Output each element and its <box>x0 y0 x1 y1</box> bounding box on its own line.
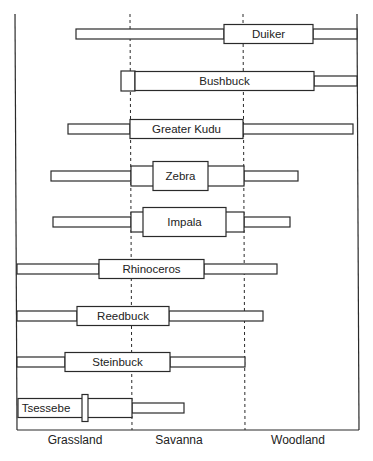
habitat-range-chart: DuikerBushbuckGreater KuduZebraImpalaRhi… <box>0 0 373 461</box>
x-label-grassland: Grassland <box>48 433 103 447</box>
left-axis-line <box>15 14 17 430</box>
species-row-rhinoceros: Rhinoceros <box>17 260 277 279</box>
greater-kudu-thin-range <box>68 124 130 134</box>
bushbuck-thin-range <box>314 76 357 86</box>
duiker-thin-range <box>76 29 224 39</box>
species-row-greater-kudu: Greater Kudu <box>68 120 353 139</box>
tsessebe-thin-range <box>132 403 184 413</box>
species-label-zebra: Zebra <box>165 170 196 182</box>
species-row-impala: Impala <box>53 208 290 237</box>
species-row-steinbuck: Steinbuck <box>17 353 245 372</box>
impala-thin-range <box>244 217 290 227</box>
steinbuck-thin-range <box>170 357 245 367</box>
species-row-zebra: Zebra <box>51 162 298 191</box>
species-row-duiker: Duiker <box>76 25 357 44</box>
species-label-reedbuck: Reedbuck <box>97 310 149 322</box>
duiker-thin-range <box>313 29 357 39</box>
impala-thin-range <box>53 217 131 227</box>
species-label-duiker: Duiker <box>252 28 285 40</box>
species-label-greater-kudu: Greater Kudu <box>152 123 221 135</box>
bushbuck-medium-range <box>121 71 135 91</box>
x-label-savanna: Savanna <box>155 433 203 447</box>
steinbuck-thin-range <box>17 357 65 367</box>
species-label-rhinoceros: Rhinoceros <box>122 263 180 275</box>
x-label-woodland: Woodland <box>271 433 325 447</box>
species-row-tsessebe: Tsessebe <box>18 395 184 422</box>
species-row-reedbuck: Reedbuck <box>17 307 263 326</box>
species-bars: DuikerBushbuckGreater KuduZebraImpalaRhi… <box>17 25 357 422</box>
zebra-thin-range <box>244 171 298 181</box>
species-label-steinbuck: Steinbuck <box>92 356 143 368</box>
rhinoceros-thin-range <box>204 264 277 274</box>
greater-kudu-thin-range <box>243 124 353 134</box>
x-axis-labels: Grassland Savanna Woodland <box>48 433 325 447</box>
species-label-tsessebe: Tsessebe <box>22 402 71 414</box>
rhinoceros-thin-range <box>17 264 99 274</box>
reedbuck-thin-range <box>169 311 263 321</box>
reedbuck-thin-range <box>17 311 77 321</box>
species-label-impala: Impala <box>167 216 202 228</box>
species-label-bushbuck: Bushbuck <box>199 75 250 87</box>
tsessebe-marker-range <box>82 395 88 422</box>
species-row-bushbuck: Bushbuck <box>121 71 357 91</box>
zebra-thin-range <box>51 171 131 181</box>
